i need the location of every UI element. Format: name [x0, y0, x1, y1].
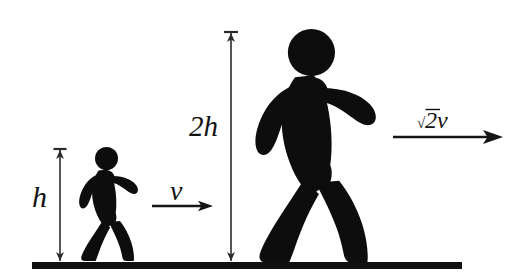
velocity-label-2v: 2v — [425, 107, 448, 133]
small-walking-person — [79, 147, 138, 261]
height-label-2h: 2h — [189, 110, 218, 142]
velocity-label-sqrt2v: √ 2v — [417, 107, 448, 133]
dimension-large-height — [224, 32, 238, 261]
height-label-h: h — [32, 180, 47, 213]
velocity-label-v: v — [170, 175, 183, 206]
large-walking-person — [255, 29, 375, 263]
physics-figure: h 2h v √ 2v — [0, 0, 527, 280]
ground-line — [32, 262, 462, 269]
velocity-vector-large — [393, 130, 503, 144]
dimension-small-height — [54, 149, 67, 261]
figure-canvas: h 2h v √ 2v — [0, 0, 527, 280]
velocity-vector-small — [152, 201, 213, 211]
